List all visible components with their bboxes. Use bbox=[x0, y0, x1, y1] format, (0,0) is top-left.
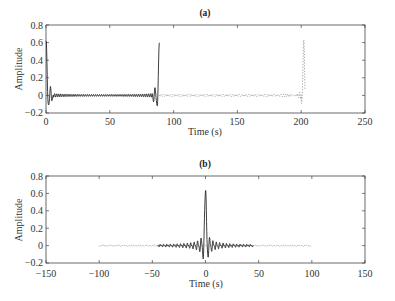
y-tick-label: −0.2 bbox=[25, 107, 43, 118]
panel-b: (b) −150 −100 −50 0 50 100 150 −0.2 0 0.… bbox=[13, 159, 373, 290]
panel-a-series bbox=[46, 40, 305, 106]
x-tick-label: 150 bbox=[358, 268, 373, 279]
y-tick-label: −0.2 bbox=[25, 257, 43, 268]
panel-b-title: (b) bbox=[199, 159, 211, 170]
panel-b-axes-box bbox=[46, 176, 365, 263]
x-tick-label: 100 bbox=[305, 268, 320, 279]
panel-b-ticks bbox=[46, 176, 365, 263]
x-tick-label: 150 bbox=[230, 116, 245, 127]
series-solid bbox=[158, 190, 253, 258]
x-tick-label: 250 bbox=[358, 116, 373, 127]
y-tick-label: 0.2 bbox=[31, 223, 44, 234]
panel-a-title: (a) bbox=[199, 8, 210, 19]
x-tick-label: 200 bbox=[294, 116, 309, 127]
y-tick-label: 0.6 bbox=[31, 188, 44, 199]
x-tick-label: 100 bbox=[167, 116, 182, 127]
figure: (a) 0 50 100 150 200 250 −0.2 0 0.2 0.4 … bbox=[0, 0, 395, 301]
x-tick-label: −100 bbox=[89, 268, 110, 279]
y-tick-label: 0.8 bbox=[31, 20, 44, 31]
y-tick-label: 0.2 bbox=[31, 72, 44, 83]
panel-a-axes-box bbox=[46, 25, 365, 113]
series-solid bbox=[46, 41, 160, 106]
x-tick-label: −50 bbox=[144, 268, 160, 279]
y-tick-label: 0 bbox=[38, 240, 43, 251]
y-tick-label: 0.8 bbox=[31, 171, 44, 182]
panel-b-series bbox=[99, 190, 311, 258]
y-tick-label: 0 bbox=[38, 90, 43, 101]
panel-a-x-axis-title: Time (s) bbox=[188, 126, 222, 138]
panel-a-y-tick-labels: −0.2 0 0.2 0.4 0.6 0.8 bbox=[25, 20, 43, 118]
panel-a-y-axis-title: Amplitude bbox=[13, 47, 24, 90]
panel-a: (a) 0 50 100 150 200 250 −0.2 0 0.2 0.4 … bbox=[13, 8, 373, 138]
panel-b-y-tick-labels: −0.2 0 0.2 0.4 0.6 0.8 bbox=[25, 171, 43, 268]
y-tick-label: 0.6 bbox=[31, 37, 44, 48]
x-tick-label: 0 bbox=[44, 116, 49, 127]
y-tick-label: 0.4 bbox=[31, 205, 44, 216]
panel-b-x-axis-title: Time (s) bbox=[189, 278, 223, 290]
panel-b-y-axis-title: Amplitude bbox=[13, 198, 24, 241]
y-tick-label: 0.4 bbox=[31, 55, 44, 66]
x-tick-label: 50 bbox=[254, 268, 264, 279]
series-dotted bbox=[99, 245, 311, 246]
x-tick-label: −150 bbox=[36, 268, 57, 279]
panel-a-ticks bbox=[46, 25, 365, 113]
series-dotted bbox=[160, 40, 305, 103]
x-tick-label: 50 bbox=[105, 116, 115, 127]
